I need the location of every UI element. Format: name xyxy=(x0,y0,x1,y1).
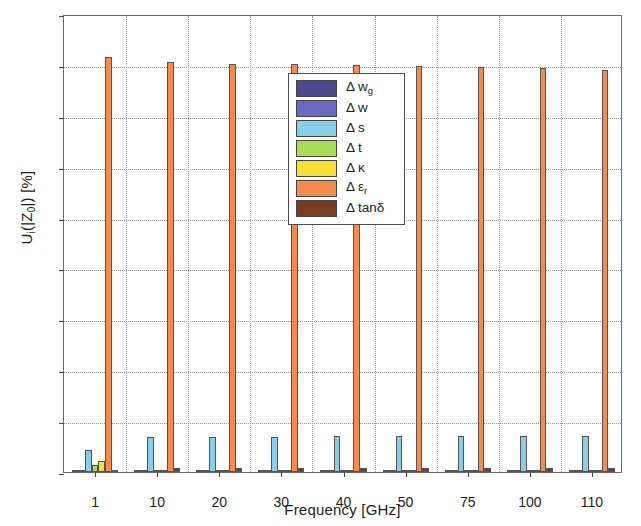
bar xyxy=(520,436,527,472)
legend-label: Δ s xyxy=(346,121,365,135)
bar xyxy=(285,470,292,472)
gridline-horizontal xyxy=(64,270,621,271)
gridline-horizontal xyxy=(64,67,621,68)
bar xyxy=(513,470,520,472)
bar xyxy=(608,468,615,472)
bar xyxy=(527,470,534,472)
gridline-vertical xyxy=(561,16,562,472)
x-tick-mark xyxy=(530,472,531,477)
plot-area: 0102030405060708090 1102030405075100110 … xyxy=(63,15,622,473)
legend-item: Δ s xyxy=(289,118,404,138)
bar xyxy=(79,470,86,472)
x-tick-label: 30 xyxy=(251,494,311,510)
gridline-vertical xyxy=(126,16,127,472)
legend-swatch xyxy=(296,200,337,217)
legend-label: Δ tanδ xyxy=(346,201,384,215)
x-tick-label: 110 xyxy=(562,494,622,510)
bar xyxy=(85,450,92,472)
x-tick-label: 1 xyxy=(65,494,125,510)
bar xyxy=(327,470,334,472)
legend-label: Δ w xyxy=(346,101,368,115)
bar xyxy=(105,57,112,472)
legend-label: Δ t xyxy=(346,141,362,155)
legend-item: Δ tanδ xyxy=(289,198,404,218)
legend-swatch xyxy=(296,120,337,137)
y-tick-mark xyxy=(59,169,64,170)
legend-label: Δ κ xyxy=(346,161,365,175)
legend-swatch xyxy=(296,100,337,117)
figure-canvas: Ui(|Z0|) [%] Frequency [GHz] 01020304050… xyxy=(0,0,641,526)
bar xyxy=(265,470,272,472)
bar xyxy=(409,470,416,472)
bar xyxy=(383,470,390,472)
bar xyxy=(216,470,223,472)
bar xyxy=(533,470,540,472)
legend-item: Δ wg xyxy=(289,78,404,98)
bar xyxy=(98,461,105,472)
bar xyxy=(278,470,285,472)
x-tick-label: 40 xyxy=(314,494,374,510)
gridline-vertical xyxy=(437,16,438,472)
bar xyxy=(546,468,553,472)
bar xyxy=(589,470,596,472)
y-axis-title-text: Ui(|Z0|) [%] xyxy=(18,171,35,245)
bar xyxy=(112,470,119,472)
bar xyxy=(92,465,99,472)
bar xyxy=(229,64,236,472)
x-tick-mark xyxy=(468,472,469,477)
bar xyxy=(334,436,341,472)
y-tick-mark xyxy=(59,220,64,221)
x-tick-mark xyxy=(344,472,345,477)
bar xyxy=(72,470,79,472)
bar xyxy=(360,468,367,472)
x-tick-mark xyxy=(95,472,96,477)
x-tick-label: 75 xyxy=(438,494,498,510)
x-tick-label: 10 xyxy=(127,494,187,510)
bar xyxy=(167,62,174,472)
bar xyxy=(209,437,216,472)
bar xyxy=(582,436,589,472)
y-axis-title: Ui(|Z0|) [%] xyxy=(18,133,37,283)
legend-swatch xyxy=(296,80,337,97)
x-tick-mark xyxy=(592,472,593,477)
legend-swatch xyxy=(296,160,337,177)
legend-swatch xyxy=(296,140,337,157)
legend-swatch xyxy=(296,180,337,197)
y-tick-mark xyxy=(59,372,64,373)
bar xyxy=(458,436,465,472)
legend-item: Δ w xyxy=(289,98,404,118)
bar xyxy=(196,470,203,472)
bar xyxy=(422,468,429,472)
bar xyxy=(602,70,609,472)
x-tick-mark xyxy=(406,472,407,477)
bar xyxy=(445,470,452,472)
legend-label: Δ wg xyxy=(346,80,373,96)
x-tick-mark xyxy=(157,472,158,477)
bar xyxy=(174,468,181,472)
bar xyxy=(340,470,347,472)
bar xyxy=(595,470,602,472)
x-tick-mark xyxy=(219,472,220,477)
x-tick-label: 100 xyxy=(500,494,560,510)
bar xyxy=(147,437,154,472)
bar xyxy=(484,468,491,472)
legend-item: Δ εr xyxy=(289,178,404,198)
x-tick-mark xyxy=(281,472,282,477)
gridline-vertical xyxy=(188,16,189,472)
bar xyxy=(389,470,396,472)
y-tick-mark xyxy=(59,270,64,271)
y-tick-mark xyxy=(59,474,64,475)
bar xyxy=(160,470,167,472)
chart-legend: Δ wgΔ wΔ sΔ tΔ κΔ εrΔ tanδ xyxy=(288,73,405,225)
bar xyxy=(575,470,582,472)
bar xyxy=(271,437,278,472)
bar xyxy=(203,470,210,472)
bar xyxy=(569,470,576,472)
bar xyxy=(298,468,305,472)
legend-item: Δ t xyxy=(289,138,404,158)
legend-item: Δ κ xyxy=(289,158,404,178)
bar xyxy=(396,436,403,472)
bar xyxy=(478,67,485,472)
bar xyxy=(507,470,514,472)
bar xyxy=(141,470,148,472)
